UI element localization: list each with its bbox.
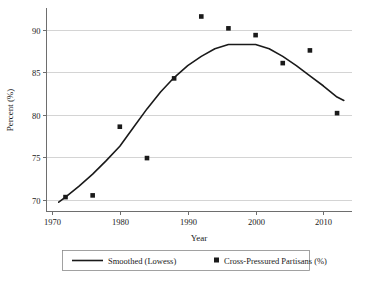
x-axis-title: Year <box>191 233 208 243</box>
x-tick-label-1990: 1990 <box>180 217 197 227</box>
data-point-marker <box>280 61 285 66</box>
x-tick-label-2010: 2010 <box>315 217 332 227</box>
data-point-marker <box>308 48 313 53</box>
x-tick-label-1970: 1970 <box>44 217 61 227</box>
data-point-marker <box>199 14 204 19</box>
chart-legend: Smoothed (Lowess) Cross-Pressured Partis… <box>63 251 328 271</box>
x-tick-label-1980: 1980 <box>112 217 129 227</box>
data-point-marker <box>226 26 231 31</box>
y-tick-label-80: 80 <box>32 111 41 121</box>
y-tick-label-75: 75 <box>32 153 41 163</box>
legend-square-swatch <box>214 258 219 263</box>
line-chart: 7075808590 19701980199020002010 Percent … <box>0 0 372 283</box>
data-point-marker <box>172 76 177 81</box>
y-tick-label-85: 85 <box>32 68 41 78</box>
y-tick-label-70: 70 <box>32 196 41 206</box>
y-tick-label-90: 90 <box>32 26 41 36</box>
data-point-marker <box>90 193 95 198</box>
data-point-marker <box>118 124 123 129</box>
y-axis-title: Percent (%) <box>5 89 15 132</box>
data-point-marker <box>335 111 340 116</box>
chart-background <box>0 0 372 283</box>
x-tick-label-2000: 2000 <box>248 217 265 227</box>
chart-figure: 7075808590 19701980199020002010 Percent … <box>0 0 372 283</box>
data-point-marker <box>63 195 68 200</box>
data-point-marker <box>253 33 258 38</box>
legend-label-cross-pressured-partisans: Cross-Pressured Partisans (%) <box>224 256 327 266</box>
data-point-marker <box>145 156 150 161</box>
legend-label-smoothed-lowess: Smoothed (Lowess) <box>108 256 176 266</box>
